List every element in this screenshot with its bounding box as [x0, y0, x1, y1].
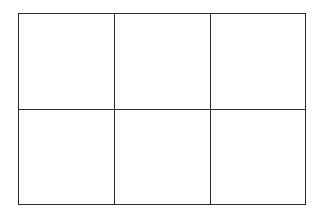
grid-cell-r2-c3 — [211, 110, 305, 204]
grid-cell-r2-c1 — [19, 110, 114, 204]
grid-cell-r1-c1 — [19, 14, 114, 109]
grid-cell-r1-c2 — [115, 14, 210, 109]
grid-cell-r2-c2 — [115, 110, 210, 204]
grid-cell-r1-c3 — [211, 14, 305, 109]
grid-2x3 — [18, 13, 306, 205]
